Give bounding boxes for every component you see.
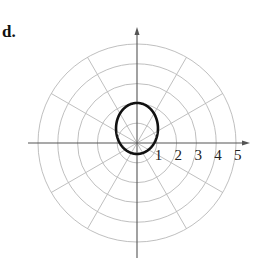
tick-label: 4: [214, 147, 222, 163]
axes: [28, 27, 250, 258]
grid-spoke: [88, 143, 138, 229]
grid-spoke: [137, 57, 187, 143]
tick-label: 3: [194, 147, 202, 163]
grid-spoke: [51, 94, 137, 144]
tick-label: 1: [155, 147, 163, 163]
grid-spoke: [137, 94, 223, 144]
grid-spoke: [88, 57, 138, 143]
tick-label: 5: [234, 147, 242, 163]
polar-chart: 12345: [0, 0, 265, 267]
tick-label: 2: [175, 147, 183, 163]
y-axis-arrow-icon: [135, 27, 140, 35]
x-axis-arrow-icon: [242, 141, 250, 146]
grid-spoke: [51, 143, 137, 193]
